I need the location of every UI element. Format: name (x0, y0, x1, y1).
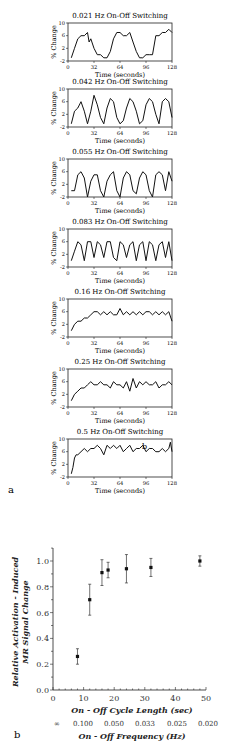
data-line (71, 242, 172, 261)
data-line (71, 379, 172, 401)
data-point (198, 559, 201, 562)
x-axis-label: On - Off Cycle Length (sec) (71, 705, 193, 715)
x-tick-label: 128 (167, 130, 177, 136)
data-point (149, 566, 152, 569)
x-tick-label: 64 (117, 480, 124, 486)
y-tick-label: 2 (62, 391, 65, 397)
panel-a-label: a (8, 484, 14, 495)
y-tick-label: 0.4 (36, 634, 49, 643)
x-tick-label: 32 (91, 410, 98, 416)
y-tick-label: 10 (58, 226, 65, 232)
panel-b-label: b (14, 729, 20, 740)
y-axis-label: % Change (50, 91, 58, 125)
x-tick-label: 96 (143, 340, 150, 346)
x-tick-label: 64 (117, 64, 124, 70)
y-axis-label: % Change (50, 371, 58, 405)
y-tick-label: -2 (60, 264, 65, 270)
x-tick-label: 96 (143, 200, 150, 206)
y-tick-label: -2 (60, 474, 65, 480)
y-tick-label: 6 (62, 378, 65, 384)
y-tick-label: 10 (58, 296, 65, 302)
x-tick-label: 96 (143, 480, 150, 486)
data-point (88, 598, 91, 601)
x-tick-label: 64 (117, 270, 124, 276)
x-tick-label: 40 (170, 694, 180, 703)
y-tick-label: 2 (62, 251, 65, 257)
time-series-panel: 0.021 Hz On-Off Switching1062-2032649612… (50, 12, 177, 79)
x-axis-label: Time (seconds) (95, 417, 145, 425)
y-tick-label: 2 (62, 181, 65, 187)
x-tick-label: 30 (140, 694, 150, 703)
y-tick-label: 6 (62, 238, 65, 244)
x-tick-label: 0 (66, 480, 69, 486)
secondary-x-tick-label: 0.100 (73, 720, 93, 728)
y-tick-label: -2 (60, 124, 65, 130)
y-tick-label: 6 (62, 448, 65, 454)
panel-title: 0.021 Hz On-Off Switching (72, 12, 168, 20)
plot-frame (68, 23, 172, 61)
y-axis-label: % Change (50, 301, 58, 335)
x-tick-label: 128 (167, 480, 177, 486)
x-tick-label: 0 (66, 130, 69, 136)
y-tick-label: 2 (62, 111, 65, 117)
time-series-panel: 0.16 Hz On-Off Switching1062-20326496128… (50, 288, 177, 355)
y-tick-label: -2 (60, 58, 65, 64)
x-tick-label: 64 (117, 200, 124, 206)
y-tick-label: 2 (62, 45, 65, 51)
x-tick-label: 96 (143, 64, 150, 70)
x-tick-label: 128 (167, 410, 177, 416)
panel-title: 0.042 Hz On-Off Switching (72, 78, 168, 86)
time-series-panel: 0.25 Hz On-Off Switching1062-20326496128… (50, 358, 177, 425)
y-tick-label: -2 (60, 334, 65, 340)
x-tick-label: 0 (50, 694, 55, 703)
x-tick-label: 20 (109, 694, 119, 703)
x-tick-label: 64 (117, 410, 124, 416)
x-tick-label: 32 (91, 130, 98, 136)
y-tick-label: 10 (58, 366, 65, 372)
panel-title: 0.16 Hz On-Off Switching (75, 288, 166, 296)
x-tick-label: 32 (91, 200, 98, 206)
y-tick-label: 0.0 (36, 686, 49, 695)
y-tick-label: 1.0 (36, 557, 49, 566)
time-series-panel: 0.083 Hz On-Off Switching1062-2032649612… (50, 218, 177, 285)
data-line (71, 309, 172, 331)
y-tick-label: -2 (60, 194, 65, 200)
data-point (76, 655, 79, 658)
x-axis-label: Time (seconds) (95, 487, 145, 495)
x-tick-label: 96 (143, 410, 150, 416)
secondary-x-tick-label: ∞ (54, 720, 60, 728)
secondary-x-tick-label: 0.020 (198, 720, 218, 728)
x-tick-label: 0 (66, 64, 69, 70)
x-axis-label: Time (seconds) (95, 347, 145, 355)
data-line (71, 172, 172, 197)
figure-canvas: 0.021 Hz On-Off Switching1062-2032649612… (0, 0, 226, 756)
y-tick-label: 0.2 (36, 660, 49, 669)
x-tick-label: 128 (167, 200, 177, 206)
y-tick-label: 6 (62, 308, 65, 314)
x-tick-label: 0 (66, 410, 69, 416)
x-tick-label: 32 (91, 270, 98, 276)
y-tick-label: 2 (62, 321, 65, 327)
stray-mark: b (142, 442, 147, 451)
y-tick-label: 10 (58, 436, 65, 442)
y-tick-label: -2 (60, 404, 65, 410)
x-tick-label: 0 (66, 270, 69, 276)
x-axis-label: Time (seconds) (95, 137, 145, 145)
x-tick-label: 32 (91, 64, 98, 70)
time-series-panel: 0.5 Hz On-Off Switching1062-20326496128%… (50, 428, 177, 495)
x-tick-label: 50 (201, 694, 211, 703)
secondary-x-axis-label: On - Off Frequency (Hz) (78, 731, 185, 741)
secondary-x-tick-label: 0.050 (104, 720, 124, 728)
y-tick-label: 6 (62, 32, 65, 38)
x-tick-label: 96 (143, 130, 150, 136)
x-tick-label: 32 (91, 340, 98, 346)
data-line (71, 29, 172, 58)
x-tick-label: 128 (167, 270, 177, 276)
x-tick-label: 64 (117, 340, 124, 346)
y-axis-label: % Change (50, 161, 58, 195)
x-axis-label: Time (seconds) (95, 277, 145, 285)
x-tick-label: 96 (143, 270, 150, 276)
y-tick-label: 10 (58, 20, 65, 26)
y-tick-label: 2 (62, 461, 65, 467)
secondary-x-tick-label: 0.025 (167, 720, 187, 728)
